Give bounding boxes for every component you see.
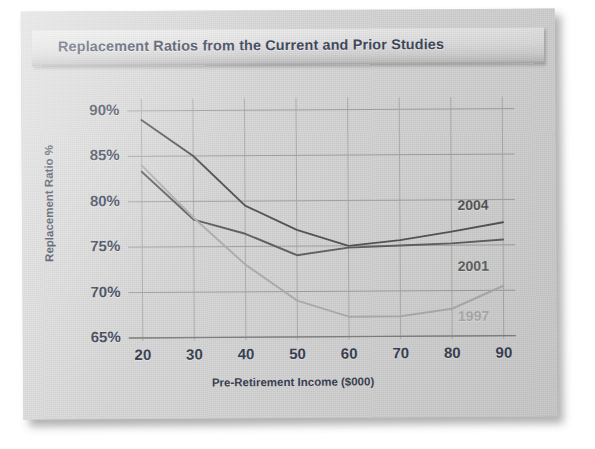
x-gridline	[348, 98, 349, 340]
x-gridline	[502, 97, 503, 339]
y-axis-title: Replacement Ratio %	[42, 123, 55, 283]
x-axis-title: Pre-Retirement Income ($000)	[133, 375, 453, 389]
x-gridline	[296, 98, 297, 340]
x-gridline	[451, 97, 452, 339]
x-tick-label: 30	[177, 345, 211, 362]
scanned-document: Replacement Ratios from the Current and …	[0, 0, 595, 449]
x-gridline	[141, 99, 142, 341]
x-tick-label: 90	[487, 344, 521, 361]
y-gridline	[128, 290, 515, 292]
x-tick-label: 70	[384, 344, 418, 361]
y-gridline	[128, 245, 515, 247]
chart-plot-area: Replacement Ratio % Pre-Retirement Incom…	[21, 8, 557, 419]
x-tick-label: 80	[435, 344, 469, 361]
y-tick-label: 75%	[64, 237, 120, 254]
chart-title-bar: Replacement Ratios from the Current and …	[32, 27, 544, 66]
series-label-2004: 2004	[457, 196, 488, 212]
chart-page: Replacement Ratios from the Current and …	[21, 8, 557, 419]
y-tick-label: 85%	[64, 146, 120, 163]
x-gridline	[399, 97, 400, 339]
page-title: Replacement Ratios from the Current and …	[58, 36, 444, 54]
series-label-1997: 1997	[458, 308, 489, 324]
x-tick-label: 20	[126, 346, 160, 363]
x-tick-label: 40	[229, 345, 263, 362]
series-line-2004	[141, 118, 503, 247]
x-tick-label: 50	[281, 345, 315, 362]
x-tick-label: 60	[332, 345, 366, 362]
y-tick-label: 90%	[63, 101, 119, 118]
y-tick-label: 65%	[65, 328, 121, 345]
y-tick-label: 80%	[64, 192, 120, 209]
y-gridline	[128, 154, 515, 156]
series-line-1997	[142, 163, 504, 318]
series-line-2001	[142, 170, 504, 257]
y-tick-label: 70%	[64, 283, 120, 300]
x-gridline	[244, 98, 245, 340]
series-label-2001: 2001	[458, 258, 489, 274]
x-axis-line	[129, 336, 516, 338]
y-gridline	[127, 109, 514, 111]
